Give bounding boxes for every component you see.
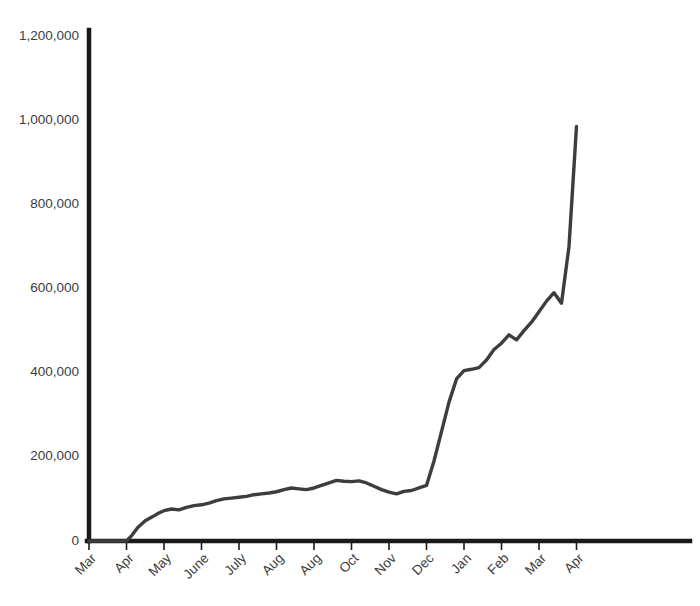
x-axis-tick-label: Aug [259, 551, 287, 579]
x-axis-tick-labels: MarAprMayJuneJulyAugAugOctNovDecJanFebMa… [72, 550, 587, 582]
x-axis-tick-label: Dec [409, 550, 437, 578]
y-axis-tick-labels: 0200,000400,000600,000800,0001,000,0001,… [19, 28, 79, 548]
data-series-line [89, 126, 577, 541]
y-axis-tick-label: 0 [71, 533, 79, 548]
x-axis-tick-marks [89, 543, 577, 550]
y-axis-tick-label: 1,000,000 [19, 112, 79, 127]
x-axis-tick-label: Nov [372, 550, 400, 578]
x-axis-tick-label: Aug [297, 551, 325, 579]
x-axis-tick-label: Mar [522, 550, 549, 577]
line-chart: 0200,000400,000600,000800,0001,000,0001,… [0, 0, 700, 606]
x-axis-tick-label: July [222, 550, 250, 578]
y-axis-tick-label: 800,000 [30, 196, 79, 211]
chart-canvas: 0200,000400,000600,000800,0001,000,0001,… [0, 0, 700, 606]
x-axis-tick-label: Mar [72, 550, 99, 577]
x-axis-tick-label: Jan [448, 551, 474, 577]
x-axis-tick-label: Apr [111, 550, 137, 576]
y-axis-tick-label: 200,000 [30, 448, 79, 463]
y-axis-tick-label: 1,200,000 [19, 28, 79, 43]
x-axis-tick-label: May [145, 550, 174, 579]
x-axis-tick-label: Oct [336, 550, 362, 576]
x-axis-tick-label: Feb [485, 551, 512, 578]
y-axis-tick-label: 600,000 [30, 280, 79, 295]
y-axis-tick-label: 400,000 [30, 364, 79, 379]
x-axis-tick-label: June [180, 551, 211, 582]
x-axis-tick-label: Apr [561, 550, 587, 576]
